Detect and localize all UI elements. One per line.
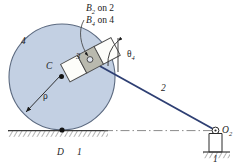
label-b2-on-2: B2 on 2: [86, 4, 114, 15]
label-ground-1-left: 1: [77, 148, 82, 158]
label-slider-3: 3: [76, 52, 80, 61]
label-theta-4: θ4: [127, 50, 135, 61]
pin-joint-b: [87, 57, 93, 63]
label-link-2: 2: [161, 84, 166, 94]
center-point-c-dot: [59, 74, 64, 79]
pivot-support-block: [209, 134, 222, 153]
label-point-d: D: [57, 148, 64, 158]
contact-point-d-dot: [59, 127, 64, 132]
label-pivot-o2: O2: [222, 126, 232, 137]
kinematics-figure: B2 on 2 B4 on 4 4 C ρ 3 θ4 2 D 1 O2 1: [0, 0, 238, 168]
label-ground-1-right: 1: [213, 155, 218, 165]
label-b4-on-4: B4 on 4: [86, 16, 114, 27]
figure-canvas: [0, 0, 238, 168]
label-link-4: 4: [21, 37, 26, 47]
pivot-joint-o2-inner: [214, 129, 216, 131]
label-center-c: C: [46, 62, 52, 72]
ground-hatching-left: [8, 131, 108, 137]
label-radius-rho: ρ: [43, 92, 48, 102]
